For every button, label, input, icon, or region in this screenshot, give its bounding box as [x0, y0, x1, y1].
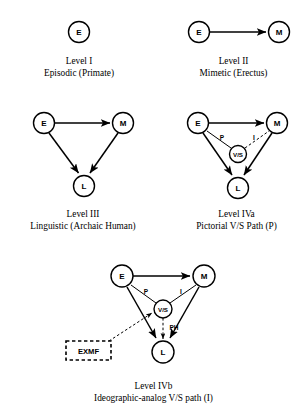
caption-level-4a-line2: Pictorial V/S Path (P)	[166, 221, 307, 233]
node-label-E: E	[41, 119, 47, 128]
node-L-level4a: L	[228, 178, 249, 199]
caption-level-2-line1: Level II	[160, 56, 307, 68]
edge-label-P-level4a: P	[220, 134, 225, 141]
node-E-level1: E	[69, 22, 90, 43]
box-label-EXMF: EXMF	[78, 347, 99, 356]
node-VS-level4b: V/S	[154, 300, 172, 318]
box-EXMF: EXMF	[66, 341, 111, 360]
node-M-level3: M	[113, 113, 134, 134]
panel-level-4b: P I PH EXMF E M V/S L	[66, 265, 215, 363]
node-label-E: E	[196, 28, 202, 37]
node-label-M: M	[201, 272, 208, 281]
edge-label-I-level4b: I	[180, 288, 182, 295]
node-label-M: M	[274, 119, 281, 128]
node-E-level4a: E	[188, 113, 209, 134]
caption-level-4b: Level IVb Ideographic-analog V/S path (I…	[0, 381, 307, 405]
caption-level-4b-line1: Level IVb	[0, 381, 307, 393]
node-M-level4b: M	[193, 265, 215, 287]
panel-level-2: E M	[189, 22, 290, 43]
node-label-M: M	[276, 28, 283, 37]
node-E-level3: E	[34, 113, 55, 134]
node-M-level2: M	[269, 22, 290, 43]
panel-level-3: E M L	[34, 113, 134, 197]
panel-level-1: E	[69, 22, 90, 43]
edge-M-to-L-level3	[90, 133, 118, 173]
node-label-E: E	[119, 272, 125, 281]
node-M-level4a: M	[267, 113, 288, 134]
edge-E-to-L-level4a	[203, 133, 232, 175]
node-E-level4b: E	[111, 265, 133, 287]
caption-level-1: Level I Episodic (Primate)	[0, 56, 158, 80]
node-label-VS: V/S	[158, 306, 168, 313]
node-label-VS: V/S	[233, 151, 243, 158]
figure-canvas: E E M E M	[0, 0, 307, 414]
edge-E-to-L-level4b	[127, 287, 156, 338]
node-L-level3: L	[74, 176, 95, 197]
node-label-L: L	[161, 348, 166, 357]
edge-label-I-level4a: I	[253, 134, 255, 141]
caption-level-4b-line2: Ideographic-analog V/S path (I)	[0, 393, 307, 405]
edge-VS-to-M-level4a	[245, 131, 269, 148]
edge-EXMF-to-VS-level4b	[109, 313, 152, 341]
edge-label-P-level4b: P	[144, 288, 149, 295]
node-label-L: L	[236, 184, 241, 193]
caption-level-4a: Level IVa Pictorial V/S Path (P)	[166, 209, 307, 233]
edge-E-to-L-level3	[49, 133, 79, 173]
caption-level-2: Level II Mimetic (Erectus)	[160, 56, 307, 80]
caption-level-1-line2: Episodic (Primate)	[0, 68, 158, 80]
caption-level-3-line1: Level III	[0, 209, 166, 221]
node-VS-level4a: V/S	[230, 146, 247, 163]
caption-level-3-line2: Linguistic (Archaic Human)	[0, 221, 166, 233]
panel-level-4a: P I E M V/S L	[188, 113, 288, 199]
node-E-level2: E	[189, 22, 210, 43]
caption-level-2-line2: Mimetic (Erectus)	[160, 68, 307, 80]
caption-level-4a-line1: Level IVa	[166, 209, 307, 221]
edge-label-PH-level4b: PH	[169, 324, 178, 331]
node-label-M: M	[120, 119, 127, 128]
caption-level-1-line1: Level I	[0, 56, 158, 68]
node-label-E: E	[76, 28, 82, 37]
node-label-E: E	[195, 119, 201, 128]
caption-level-3: Level III Linguistic (Archaic Human)	[0, 209, 166, 233]
node-L-level4b: L	[152, 341, 174, 363]
node-label-L: L	[82, 182, 87, 191]
